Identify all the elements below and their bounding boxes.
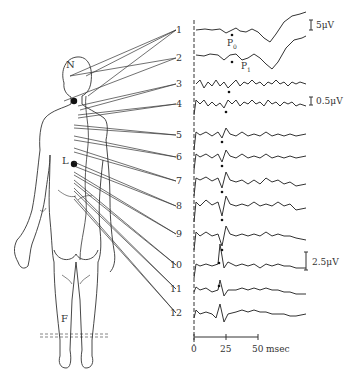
time-unit-label: msec: [266, 344, 290, 354]
trace-12: [194, 304, 306, 322]
trace-4: [194, 100, 306, 115]
trace-label-2: 2: [168, 52, 182, 63]
time-tick-50: 50: [252, 344, 263, 354]
trace-7: [194, 172, 306, 196]
trace-11: [194, 280, 306, 296]
trace-label-12: 12: [168, 307, 182, 318]
p0-subscript: 0: [233, 43, 237, 50]
electrode-connector-lines: [64, 30, 176, 313]
trace-label-3: 3: [168, 78, 182, 89]
trace-label-4: 4: [168, 98, 182, 109]
label-F: F: [61, 314, 68, 324]
time-tick-25: 25: [220, 344, 231, 354]
trace-10: [194, 244, 306, 278]
trace-5: [194, 128, 306, 150]
peak-markers: [218, 34, 234, 288]
scale-bars: [304, 20, 313, 270]
trace-label-8: 8: [168, 200, 182, 211]
trace-label-10: 10: [168, 259, 182, 270]
trace-2: [196, 36, 306, 69]
time-axis: [194, 334, 258, 340]
trace-label-7: 7: [168, 175, 182, 186]
peak-label-p0: P0: [227, 38, 237, 52]
trace-1: [196, 12, 306, 42]
trace-6: [194, 150, 306, 170]
trace-8: [194, 196, 306, 222]
trace-label-1: 1: [168, 24, 182, 35]
scale-label-2-5uv: 2.5μV: [312, 257, 339, 267]
trace-label-11: 11: [168, 283, 182, 294]
peak-label-p1: P1: [241, 61, 251, 75]
trace-3: [196, 80, 306, 88]
trace-9: [194, 226, 306, 250]
scale-label-0-5uv: 0.5μV: [316, 96, 343, 106]
label-L: L: [62, 156, 69, 166]
trace-label-6: 6: [168, 151, 182, 162]
waveform-traces: [194, 12, 306, 322]
trace-label-5: 5: [168, 129, 182, 140]
p1-subscript: 1: [247, 66, 251, 73]
scale-label-5uv: 5μV: [316, 20, 334, 30]
electrode-markers: [71, 98, 77, 167]
time-tick-0: 0: [191, 344, 197, 354]
trace-label-9: 9: [168, 228, 182, 239]
electrode-neck-dot: [71, 98, 77, 104]
label-N: N: [66, 60, 75, 70]
